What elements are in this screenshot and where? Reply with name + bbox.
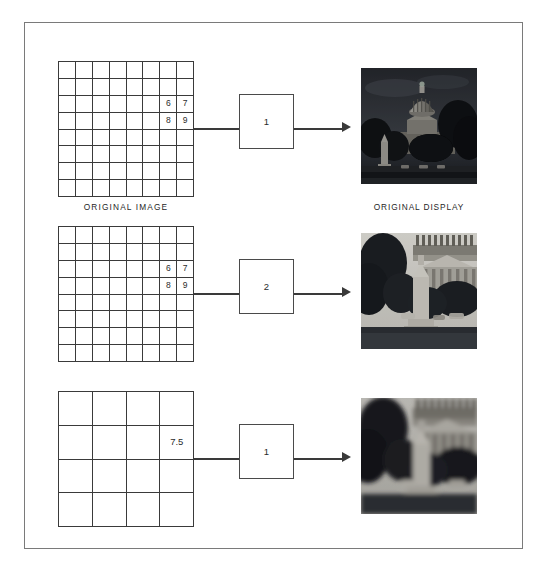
pixel-cell (143, 79, 160, 96)
connector-line-left (194, 293, 239, 295)
connector-line-left (194, 128, 239, 130)
pixel-cell (110, 345, 127, 362)
pixel-cell (110, 227, 127, 244)
pixel-cell (59, 163, 76, 180)
pixel-grid-wrapper: 6789 (58, 61, 194, 197)
connector-line-left (194, 458, 239, 460)
pixel-cell (143, 261, 160, 278)
pixel-cell (93, 295, 110, 312)
pixel-cell (76, 130, 93, 147)
connector-line-right (294, 293, 344, 295)
pixel-cell (160, 244, 177, 261)
pixel-cell (59, 79, 76, 96)
pixel-cell (110, 311, 127, 328)
pixel-cell-value: 6 (160, 261, 177, 278)
pixel-cell-value: 7 (177, 96, 194, 113)
pixel-cell (59, 130, 76, 147)
process-box: 1 (239, 94, 294, 149)
process-box: 2 (239, 259, 294, 314)
pixel-cell (127, 392, 161, 426)
pixel-cell (76, 345, 93, 362)
pixel-cell-value: 9 (177, 278, 194, 295)
pixel-cell (143, 146, 160, 163)
pixel-cell (59, 328, 76, 345)
pixel-cell (93, 426, 127, 460)
connector-line-right (294, 458, 344, 460)
pixel-cell (110, 328, 127, 345)
pixel-cell (160, 227, 177, 244)
pixel-cell (110, 146, 127, 163)
pixel-cell (93, 96, 110, 113)
pixel-cell (110, 295, 127, 312)
pixel-cell (59, 392, 93, 426)
connector-line-right (294, 128, 344, 130)
pixel-cell (76, 295, 93, 312)
pixel-cell (76, 261, 93, 278)
pixel-cell (143, 113, 160, 130)
pixel-cell (177, 295, 194, 312)
pixel-cell (143, 328, 160, 345)
pixel-cell (110, 261, 127, 278)
pixel-grid: 6789 (58, 61, 194, 197)
pixel-cell (76, 79, 93, 96)
pixel-cell (177, 62, 194, 79)
pixel-cell (127, 180, 144, 197)
pixel-cell (177, 146, 194, 163)
pixel-cell (76, 113, 93, 130)
pixel-cell (59, 295, 76, 312)
diagram-row: 7.51 (25, 369, 522, 534)
pixel-cell (93, 278, 110, 295)
pixel-cell (76, 62, 93, 79)
pixel-cell (93, 62, 110, 79)
pixel-cell (160, 130, 177, 147)
pixel-cell (59, 345, 76, 362)
diagram-row: 6789ORIGINAL IMAGE1 (25, 39, 522, 204)
pixel-cell (177, 79, 194, 96)
pixel-cell (76, 163, 93, 180)
display-photo (361, 233, 477, 349)
pixel-cell-value: 8 (160, 113, 177, 130)
pixel-cell (93, 311, 110, 328)
pixel-grid-wrapper: 6789 (58, 226, 194, 362)
pixel-cell (93, 163, 110, 180)
pixel-cell (160, 311, 177, 328)
pixel-cell (127, 146, 144, 163)
arrow-right-icon (342, 452, 351, 462)
pixel-cell (93, 493, 127, 527)
pixel-cell (127, 311, 144, 328)
pixel-cell (143, 180, 160, 197)
pixel-cell (76, 227, 93, 244)
pixel-cell (127, 261, 144, 278)
pixel-cell (93, 180, 110, 197)
pixel-cell (127, 62, 144, 79)
pixel-cell (160, 493, 194, 527)
pixel-cell (127, 163, 144, 180)
pixel-cell (143, 278, 160, 295)
pixel-cell-value: 9 (177, 113, 194, 130)
pixel-cell (143, 345, 160, 362)
pixel-cell (59, 278, 76, 295)
pixel-cell (127, 460, 161, 494)
pixel-cell (127, 426, 161, 460)
pixel-cell (143, 295, 160, 312)
pixel-cell (93, 345, 110, 362)
pixel-cell (177, 163, 194, 180)
arrow-right-icon (342, 122, 351, 132)
pixel-cell (177, 345, 194, 362)
pixel-cell (93, 261, 110, 278)
pixel-cell (143, 96, 160, 113)
pixel-grid: 7.5 (58, 391, 194, 527)
pixel-cell (76, 96, 93, 113)
display-photo (361, 68, 477, 184)
pixel-cell (59, 311, 76, 328)
pixel-cell (59, 96, 76, 113)
pixel-cell (160, 460, 194, 494)
pixel-cell (93, 244, 110, 261)
pixel-cell (177, 328, 194, 345)
pixel-cell (59, 146, 76, 163)
pixel-cell (177, 180, 194, 197)
pixel-cell (127, 328, 144, 345)
pixel-cell (127, 227, 144, 244)
pixel-cell (177, 244, 194, 261)
pixel-cell-value: 8 (160, 278, 177, 295)
